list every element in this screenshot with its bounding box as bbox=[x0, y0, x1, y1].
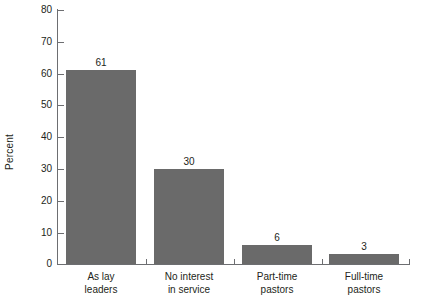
category-label-as-lay-leaders: As lay leaders bbox=[61, 270, 141, 296]
y-tick-label-10: 10 bbox=[28, 228, 52, 238]
bar-no-interest-in-service[interactable] bbox=[154, 169, 224, 264]
y-tick-label-0: 0 bbox=[28, 259, 52, 269]
bar-chart: Percent 80 70 60 50 40 30 20 10 0 61 30 … bbox=[0, 0, 421, 304]
bar-as-lay-leaders[interactable] bbox=[66, 70, 136, 264]
bar-value-no-interest-in-service: 30 bbox=[154, 156, 224, 167]
category-label-line-1: As lay bbox=[61, 270, 141, 283]
category-label-line-2: leaders bbox=[61, 283, 141, 296]
category-label-line-1: Full-time bbox=[324, 270, 404, 283]
bar-part-time-pastors[interactable] bbox=[242, 245, 312, 264]
y-tick-label-30: 30 bbox=[28, 164, 52, 174]
category-label-line-1: Part-time bbox=[237, 270, 317, 283]
bar-value-as-lay-leaders: 61 bbox=[66, 57, 136, 68]
bar-value-part-time-pastors: 6 bbox=[242, 232, 312, 243]
category-label-full-time-pastors: Full-time pastors bbox=[324, 270, 404, 296]
category-label-line-2: pastors bbox=[324, 283, 404, 296]
y-tick-0 bbox=[58, 264, 64, 265]
y-axis-title: Percent bbox=[0, 0, 18, 304]
category-label-line-2: pastors bbox=[237, 283, 317, 296]
bar-full-time-pastors[interactable] bbox=[329, 254, 399, 264]
bar-value-full-time-pastors: 3 bbox=[329, 241, 399, 252]
category-label-no-interest-in-service: No interest in service bbox=[149, 270, 229, 296]
y-tick-label-70: 70 bbox=[28, 37, 52, 47]
y-tick-label-50: 50 bbox=[28, 100, 52, 110]
category-label-line-1: No interest bbox=[149, 270, 229, 283]
category-label-line-2: in service bbox=[149, 283, 229, 296]
y-tick-label-20: 20 bbox=[28, 196, 52, 206]
category-label-part-time-pastors: Part-time pastors bbox=[237, 270, 317, 296]
y-tick-label-60: 60 bbox=[28, 69, 52, 79]
plot-area bbox=[57, 10, 410, 264]
y-tick-label-80: 80 bbox=[28, 5, 52, 15]
y-tick-label-40: 40 bbox=[28, 132, 52, 142]
